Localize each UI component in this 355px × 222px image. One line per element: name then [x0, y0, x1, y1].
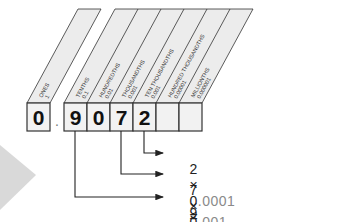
equation-row: 9 × 0.1 = 0.9	[172, 189, 216, 222]
equations: 2 × 0.0001 = 0.0002 7 × 0.001 = 0.007 9 …	[0, 0, 355, 222]
